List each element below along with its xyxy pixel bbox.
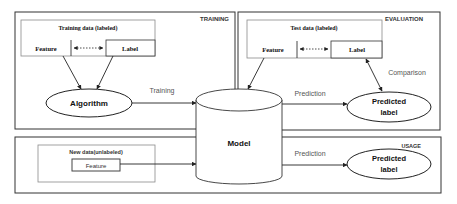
model-node: Model	[196, 89, 282, 184]
test-data-box: Test data (labeled) Feature Label	[247, 20, 382, 58]
new-data-title: New data(unlabeled)	[69, 149, 123, 155]
evaluation-section-label: EVALUATION	[385, 16, 423, 22]
usage-prediction-edge-label: Prediction	[294, 150, 325, 157]
training-feature-label: Feature	[35, 45, 57, 52]
training-section-label: TRAINING	[200, 16, 229, 22]
model-label: Model	[227, 139, 250, 148]
test-feature-label: Feature	[262, 46, 284, 53]
training-data-title: Training data (labeled)	[59, 25, 118, 32]
test-data-title: Test data (labeled)	[290, 25, 337, 32]
eval-predicted-text-1: Predicted	[372, 97, 407, 106]
test-label-label: Label	[349, 46, 365, 53]
eval-predicted-text-2: label	[380, 108, 397, 117]
ml-workflow-diagram: TRAINING Training data (labeled) Feature…	[0, 0, 457, 204]
training-edge-label: Training	[149, 87, 174, 95]
algorithm-label: Algorithm	[70, 99, 108, 108]
training-label-label: Label	[122, 45, 138, 52]
usage-predicted-text-1: Predicted	[372, 154, 407, 163]
training-data-box: Training data (labeled) Feature Label	[21, 20, 155, 56]
eval-prediction-edge-label: Prediction	[294, 90, 325, 97]
new-feature-label: Feature	[86, 163, 107, 169]
usage-predicted-text-2: label	[380, 165, 397, 174]
usage-section-label: USAGE	[401, 143, 421, 149]
new-data-box: New data(unlabeled) Feature	[38, 145, 155, 182]
comparison-edge-label: Comparison	[388, 69, 426, 77]
